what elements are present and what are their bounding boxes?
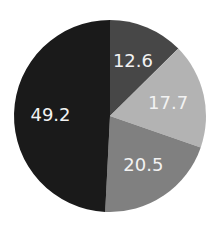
pie-chart: 12.617.720.549.2 [0, 0, 215, 232]
slice-value-label: 20.5 [123, 154, 163, 175]
slice-value-label: 17.7 [148, 92, 188, 113]
slice-value-label: 49.2 [30, 104, 70, 125]
slice-value-label: 12.6 [113, 50, 153, 71]
